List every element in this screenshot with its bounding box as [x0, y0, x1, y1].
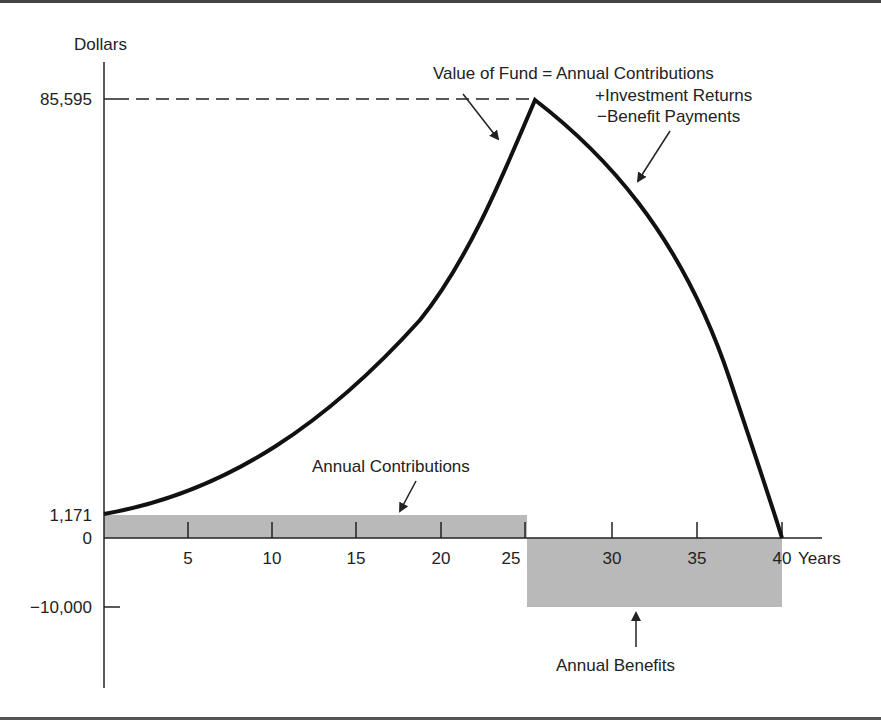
x-tick-15: 15 [341, 550, 371, 567]
y-tick-neg10000: −10,000 [0, 599, 92, 616]
y-tick-0: 0 [0, 530, 92, 547]
chart-canvas [0, 0, 881, 720]
annual-benefits-label: Annual Benefits [556, 657, 675, 674]
x-tick-40: 40 [767, 550, 797, 567]
benefit-payments-arrow [638, 131, 670, 181]
annual-contributions-band [104, 515, 527, 538]
equation-line-2: +Investment Returns [595, 87, 752, 104]
y-tick-1171: 1,171 [0, 507, 92, 524]
x-tick-25: 25 [496, 550, 526, 567]
x-tick-5: 5 [173, 550, 203, 567]
equation-line-1: Value of Fund = Annual Contributions [433, 65, 714, 82]
y-tick-85595: 85,595 [0, 91, 92, 108]
x-tick-30: 30 [597, 550, 627, 567]
x-tick-35: 35 [682, 550, 712, 567]
x-tick-20: 20 [426, 550, 456, 567]
annual-contributions-label: Annual Contributions [312, 458, 470, 475]
x-axis-label: Years [798, 550, 841, 567]
equation-line-3: −Benefit Payments [597, 108, 740, 125]
annual-benefits-band [527, 538, 782, 607]
y-axis-label: Dollars [74, 36, 127, 53]
annual-contributions-arrow [400, 481, 416, 511]
value-of-fund-arrow [463, 94, 498, 139]
x-tick-10: 10 [257, 550, 287, 567]
